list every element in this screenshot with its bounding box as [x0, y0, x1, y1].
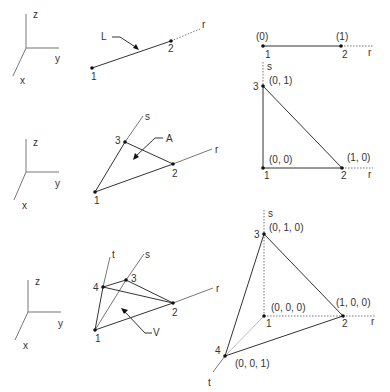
s-axis-label: s: [267, 61, 272, 72]
z-label: z: [33, 9, 38, 20]
node-2-label: 2: [342, 49, 348, 60]
r-axis-label: r: [216, 283, 220, 294]
t-axis-label: t: [112, 249, 115, 260]
t-axis-label: t: [208, 377, 211, 388]
element-label-L: L: [101, 31, 107, 42]
axis-triad-2: z y x: [14, 137, 60, 211]
node-1-label: 1: [91, 71, 97, 82]
x-label: x: [23, 340, 28, 351]
coord-node-2: (1, 0): [347, 152, 370, 163]
node-1-label: 1: [95, 333, 101, 344]
axis-triad-1: z y x: [13, 9, 60, 86]
x-label: x: [22, 200, 27, 211]
coord-node-4: (0, 0, 1): [235, 358, 269, 369]
node-1-label: 1: [266, 318, 272, 329]
r-axis-label: r: [215, 144, 219, 155]
coord-node-3: (0, 1, 0): [269, 222, 303, 233]
node-2-label: 2: [172, 168, 178, 179]
node-2-label: 2: [342, 318, 348, 329]
coord-node-2: (1, 0, 0): [336, 297, 370, 308]
node-4-label: 4: [93, 282, 99, 293]
axis-triad-3: z y x: [15, 276, 63, 351]
coord-node-1: (0, 0): [269, 154, 292, 165]
line-element-natural: (0) (1) 1 2 r: [256, 31, 373, 60]
y-label: y: [58, 318, 63, 329]
tetrahedron-element-natural: s 3 (0, 1, 0) (0, 0, 0) (1, 0, 0) 1 2 r …: [208, 208, 375, 388]
r-axis-label: r: [368, 47, 372, 58]
node-2-label: 2: [172, 307, 178, 318]
r-axis-label: r: [202, 19, 206, 30]
coord-node-1: (0, 0, 0): [271, 302, 305, 313]
element-diagram: z y x L r 1 2 (0) (1) 1 2 r s: [0, 0, 390, 392]
coord-node-2: (1): [336, 31, 348, 42]
coord-node-3: (0, 1): [269, 75, 292, 86]
s-axis-label: s: [145, 249, 150, 260]
node-2-label: 2: [168, 43, 174, 54]
node-1-label: 1: [94, 195, 100, 206]
s-axis-label: s: [268, 208, 273, 219]
x-label: x: [20, 75, 25, 86]
node-1-label: 1: [265, 49, 271, 60]
y-label: y: [55, 53, 60, 64]
node-3-label: 3: [131, 273, 137, 284]
z-label: z: [33, 137, 38, 148]
z-label: z: [35, 276, 40, 287]
triangle-element-natural: s 3 (0, 1) (0, 0) (1, 0) 1 2 r: [253, 61, 373, 181]
node-3-label: 3: [254, 229, 260, 240]
element-label-A: A: [166, 133, 173, 144]
node-3-label: 3: [253, 81, 259, 92]
r-axis-label: r: [371, 316, 375, 327]
y-label: y: [55, 178, 60, 189]
node-3-label: 3: [115, 135, 121, 146]
coord-node-1: (0): [256, 31, 268, 42]
node-1-label: 1: [264, 170, 270, 181]
r-axis-label: r: [368, 169, 372, 180]
triangle-element-iso: A s r 3 2 1: [93, 111, 219, 206]
s-axis-label: s: [145, 111, 150, 122]
tetrahedron-element-iso: V t s r 4 3 2 1: [93, 249, 220, 344]
line-element-iso: L r 1 2: [90, 19, 206, 82]
node-4-label: 4: [215, 345, 221, 356]
element-label-V: V: [153, 327, 160, 338]
node-2-label: 2: [341, 170, 347, 181]
